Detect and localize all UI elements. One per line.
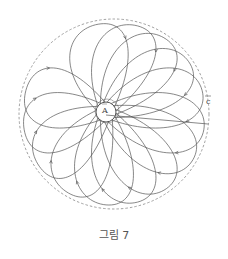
trajectory-loop <box>100 33 177 114</box>
figure-caption: 그림 7 <box>0 226 228 242</box>
trajectory-loops <box>24 24 205 205</box>
diagram-figure <box>0 0 228 259</box>
trajectory-loop <box>92 113 156 203</box>
vector-c-label: c <box>206 97 210 106</box>
trajectory-loop <box>70 24 128 110</box>
trajectory-loop <box>108 93 204 153</box>
point-a-label: A <box>102 106 108 115</box>
bounding-dashed-circle <box>19 19 209 209</box>
trajectory-loop <box>51 111 113 198</box>
vector-a-to-c-line <box>106 115 208 124</box>
